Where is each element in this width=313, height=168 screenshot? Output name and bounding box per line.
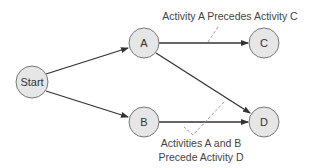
annotation-ab-precede-d-line2: Precede Activity D: [158, 151, 244, 163]
node-d: D: [249, 107, 279, 137]
node-b: B: [129, 107, 159, 137]
edge-start-b: [46, 91, 128, 117]
node-d-label: D: [260, 116, 268, 128]
node-c: C: [249, 28, 279, 58]
precedence-diagram: Start A B C D Activity A Precedes Activi…: [0, 0, 313, 168]
node-start: Start: [16, 66, 48, 98]
annotation-ab-precede-d-line1: Activities A and B: [161, 137, 242, 149]
node-c-label: C: [260, 37, 268, 49]
diagram-svg: Start A B C D Activity A Precedes Activi…: [0, 0, 313, 168]
edge-a-d: [156, 53, 250, 113]
node-a: A: [129, 28, 159, 58]
callout-line-bottom: [184, 102, 224, 135]
callout-line-top: [208, 27, 218, 42]
node-a-label: A: [140, 37, 148, 49]
node-start-label: Start: [20, 76, 43, 88]
node-b-label: B: [140, 116, 147, 128]
annotation-a-precedes-c: Activity A Precedes Activity C: [162, 10, 298, 22]
edge-start-a: [46, 48, 128, 74]
